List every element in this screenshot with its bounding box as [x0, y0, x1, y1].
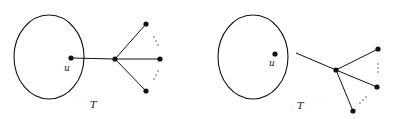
vertex-center [333, 67, 338, 72]
vertex-top [143, 21, 148, 26]
ellipsis-dots-diagonal [359, 96, 366, 103]
tree-region-ellipse [14, 15, 84, 99]
right-diagram: u T [218, 15, 381, 114]
left-diagram: u T [14, 15, 163, 110]
ellipsis-dots-lower [153, 70, 158, 79]
edge-center-to-top [115, 24, 146, 59]
tree-region-ellipse [218, 15, 288, 99]
vertex-u [272, 51, 277, 56]
vertex-bottom [143, 88, 148, 93]
vertex-bottom [350, 108, 355, 113]
vertex-top [375, 46, 380, 51]
edge-center-to-top [336, 49, 378, 70]
edge-center-to-bottom [115, 59, 146, 91]
vertex-u-label: u [64, 63, 70, 73]
ellipsis-dots-vertical [377, 63, 378, 72]
edge-u-to-center [71, 58, 115, 59]
region-t-label: T [90, 99, 98, 110]
region-t-label: T [297, 100, 305, 111]
vertex-u [68, 55, 73, 60]
edge-outside-to-center [296, 53, 336, 70]
vertex-center [112, 56, 117, 61]
ellipsis-dots-upper [153, 36, 158, 45]
vertex-middle [157, 56, 162, 61]
vertex-u-label: u [269, 58, 275, 68]
diagram-canvas: u T u T [0, 0, 393, 119]
vertex-middle [374, 84, 379, 89]
